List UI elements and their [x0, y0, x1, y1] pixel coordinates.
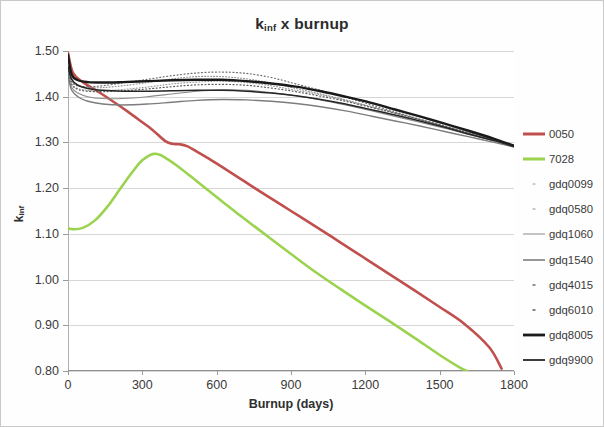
- legend-label: gdq9900: [549, 354, 593, 366]
- page-title: kinf x burnup: [1, 15, 603, 33]
- x-tick-label: 1500: [426, 378, 454, 392]
- legend-swatch-icon: [523, 178, 545, 190]
- legend-swatch-icon: [523, 329, 545, 341]
- x-tick-mark: [142, 371, 143, 375]
- y-tick-label: 1.30: [35, 135, 59, 149]
- x-tick-mark: [365, 371, 366, 375]
- plot-area: [68, 51, 514, 371]
- series-line-gdq0099: [68, 73, 514, 146]
- legend-label: gdq6010: [549, 304, 593, 316]
- legend-label: gdq1060: [549, 228, 593, 240]
- x-tick-mark: [291, 371, 292, 375]
- y-tick-label: 1.00: [35, 273, 59, 287]
- x-tick-label: 1800: [500, 378, 528, 392]
- legend-label: 0050: [549, 128, 574, 140]
- legend-item-gdq0099[interactable]: gdq0099: [523, 171, 603, 196]
- x-tick-mark: [440, 371, 441, 375]
- legend-item-gdq4015[interactable]: gdq4015: [523, 272, 603, 297]
- plot-wrapper: 0.800.901.001.101.201.301.401.50 0300600…: [68, 51, 514, 371]
- legend-item-gdq1060[interactable]: gdq1060: [523, 222, 603, 247]
- legend-swatch-icon: [523, 153, 545, 165]
- legend-swatch-icon: [523, 228, 545, 240]
- legend-item-gdq1540[interactable]: gdq1540: [523, 247, 603, 272]
- x-tick-label: 600: [206, 378, 227, 392]
- legend-swatch-icon: [523, 128, 545, 140]
- legend-item-gdq0580[interactable]: gdq0580: [523, 197, 603, 222]
- y-axis-label: kinf: [12, 205, 26, 221]
- y-tick-label: 0.80: [35, 364, 59, 378]
- legend-swatch-icon: [523, 354, 545, 366]
- chart-legend: 00507028gdq0099gdq0580gdq1060gdq1540gdq4…: [523, 121, 603, 373]
- legend-item-0050[interactable]: 0050: [523, 121, 603, 146]
- x-tick-label: 900: [281, 378, 302, 392]
- chart-title-rest: x burnup: [276, 15, 348, 32]
- x-tick-label: 0: [65, 378, 72, 392]
- legend-label: 7028: [549, 153, 574, 165]
- y-tick-label: 1.10: [35, 227, 59, 241]
- chart-figure: kinf x burnup kinf 0.800.901.001.101.201…: [0, 0, 604, 427]
- series-line-7028: [68, 154, 467, 371]
- y-tick-label: 1.20: [35, 181, 59, 195]
- legend-swatch-icon: [523, 279, 545, 291]
- series-line-gdq6010: [68, 74, 514, 146]
- x-tick-mark: [68, 371, 69, 375]
- series-line-0050: [68, 53, 502, 369]
- legend-label: gdq4015: [549, 279, 593, 291]
- legend-label: gdq8005: [549, 329, 593, 341]
- y-tick-label: 1.40: [35, 90, 59, 104]
- series-line-gdq9900: [68, 67, 514, 147]
- legend-item-gdq6010[interactable]: gdq6010: [523, 297, 603, 322]
- x-tick-mark: [217, 371, 218, 375]
- legend-item-gdq9900[interactable]: gdq9900: [523, 348, 603, 373]
- y-tick-label: 0.90: [35, 318, 59, 332]
- x-tick-mark: [514, 371, 515, 375]
- series-curves: [68, 51, 514, 371]
- legend-item-gdq8005[interactable]: gdq8005: [523, 323, 603, 348]
- x-tick-label: 1200: [351, 378, 379, 392]
- legend-label: gdq0099: [549, 178, 593, 190]
- legend-label: gdq1540: [549, 254, 593, 266]
- y-axis-label-main: k: [12, 215, 26, 222]
- y-axis-label-subscript: inf: [17, 205, 26, 215]
- chart-title-main: k: [255, 15, 264, 32]
- chart-title-subscript: inf: [264, 22, 276, 33]
- legend-swatch-icon: [523, 254, 545, 266]
- legend-swatch-icon: [523, 203, 545, 215]
- legend-swatch-icon: [523, 304, 545, 316]
- x-axis-label: Burnup (days): [68, 397, 514, 411]
- y-tick-label: 1.50: [35, 44, 59, 58]
- legend-item-7028[interactable]: 7028: [523, 146, 603, 171]
- x-tick-label: 300: [132, 378, 153, 392]
- legend-label: gdq0580: [549, 203, 593, 215]
